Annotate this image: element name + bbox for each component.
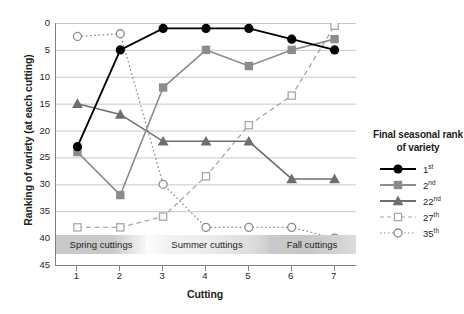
y-tick-label: 5 (20, 44, 50, 55)
legend-label: 2nd (418, 179, 436, 191)
x-tick-label: 1 (64, 270, 88, 281)
legend-label-base: 27 (423, 212, 434, 223)
open-square-marker (394, 213, 401, 220)
x-tick-mark (205, 266, 206, 271)
open-circle-marker (202, 223, 210, 231)
season-band-fall: Fall cuttings (268, 235, 356, 254)
open-circle-marker (288, 223, 296, 231)
filled-square-marker (394, 181, 402, 189)
series-22nd (72, 98, 340, 183)
open-square-marker (74, 224, 81, 231)
legend-sample-open-circle (378, 226, 418, 240)
legend-item-1st: 1st (372, 161, 464, 177)
y-tick-label: 40 (20, 232, 50, 243)
legend-label: 22nd (418, 195, 441, 207)
x-tick-label: 7 (322, 270, 346, 281)
filled-circle-marker (287, 35, 296, 44)
y-tick-label: 10 (20, 71, 50, 82)
legend-item-35th: 35th (372, 225, 464, 241)
legend-label: 1st (418, 163, 433, 175)
legend-entries: 1st2nd22nd27th35th (372, 161, 464, 241)
y-tick-label: 20 (20, 125, 50, 136)
x-axis-title: Cutting (55, 288, 355, 300)
x-tick-label: 4 (193, 270, 217, 281)
open-square-marker (245, 122, 252, 129)
legend-label: 27th (418, 211, 439, 223)
series-line (77, 26, 334, 228)
legend-label-base: 22 (423, 196, 434, 207)
y-tick-label: 0 (20, 17, 50, 28)
open-circle-marker (159, 180, 167, 188)
season-band-spring: Spring cuttings (56, 235, 146, 254)
plot-area: Spring cuttings Summer cuttings Fall cut… (55, 23, 356, 266)
filled-circle-marker (73, 142, 82, 151)
x-tick-mark (119, 266, 120, 271)
filled-square-marker (330, 35, 338, 43)
open-circle-marker (245, 223, 253, 231)
filled-square-marker (116, 191, 124, 199)
x-tick-mark (162, 266, 163, 271)
season-band-summer: Summer cuttings (146, 235, 268, 254)
open-circle-marker (116, 30, 124, 38)
y-tick-label: 30 (20, 178, 50, 189)
legend-label: 35th (418, 227, 439, 239)
y-tick-label: 45 (20, 259, 50, 270)
legend: Final seasonal rank of variety 1st2nd22n… (372, 128, 464, 241)
open-square-marker (288, 92, 295, 99)
x-tick-mark (76, 266, 77, 271)
legend-sample-filled-square (378, 178, 418, 192)
open-square-marker (117, 224, 124, 231)
open-square-marker (331, 23, 338, 29)
series-27th (74, 23, 338, 231)
legend-label-ordinal: st (428, 163, 433, 170)
x-tick-mark (248, 266, 249, 271)
filled-circle-marker (201, 24, 210, 33)
y-tick-label: 15 (20, 98, 50, 109)
legend-label-ordinal: nd (434, 195, 441, 202)
legend-label-ordinal: th (434, 211, 439, 218)
filled-square-marker (245, 62, 253, 70)
open-circle-marker (394, 229, 402, 237)
x-tick-mark (334, 266, 335, 271)
series-1st (73, 24, 339, 152)
filled-square-marker (159, 83, 167, 91)
open-circle-marker (73, 32, 81, 40)
legend-label-base: 35 (423, 228, 434, 239)
legend-label-ordinal: nd (428, 179, 435, 186)
legend-sample-open-square (378, 210, 418, 224)
filled-square-marker (202, 46, 210, 54)
x-tick-mark (291, 266, 292, 271)
plot-svg (56, 23, 356, 265)
open-square-marker (202, 173, 209, 180)
chart-figure: Ranking of variety (at each cutting) 051… (0, 0, 464, 314)
open-square-marker (160, 213, 167, 220)
filled-circle-marker (244, 24, 253, 33)
filled-circle-marker (116, 45, 125, 54)
filled-triangle-marker (72, 98, 83, 108)
filled-circle-marker (159, 24, 168, 33)
y-axis-tick-labels: 051015202530354045 (18, 0, 50, 314)
x-tick-label: 6 (279, 270, 303, 281)
filled-circle-marker (330, 45, 339, 54)
legend-label-ordinal: th (434, 227, 439, 234)
legend-sample-filled-circle (378, 162, 418, 176)
filled-square-marker (288, 46, 296, 54)
legend-item-22nd: 22nd (372, 193, 464, 209)
x-tick-label: 2 (107, 270, 131, 281)
x-tick-label: 5 (236, 270, 260, 281)
x-tick-label: 3 (150, 270, 174, 281)
y-tick-label: 25 (20, 151, 50, 162)
legend-title: Final seasonal rank of variety (372, 128, 464, 154)
filled-circle-marker (393, 164, 402, 173)
legend-item-27th: 27th (372, 209, 464, 225)
legend-sample-filled-triangle (378, 194, 418, 208)
legend-item-2nd: 2nd (372, 177, 464, 193)
y-tick-label: 35 (20, 205, 50, 216)
